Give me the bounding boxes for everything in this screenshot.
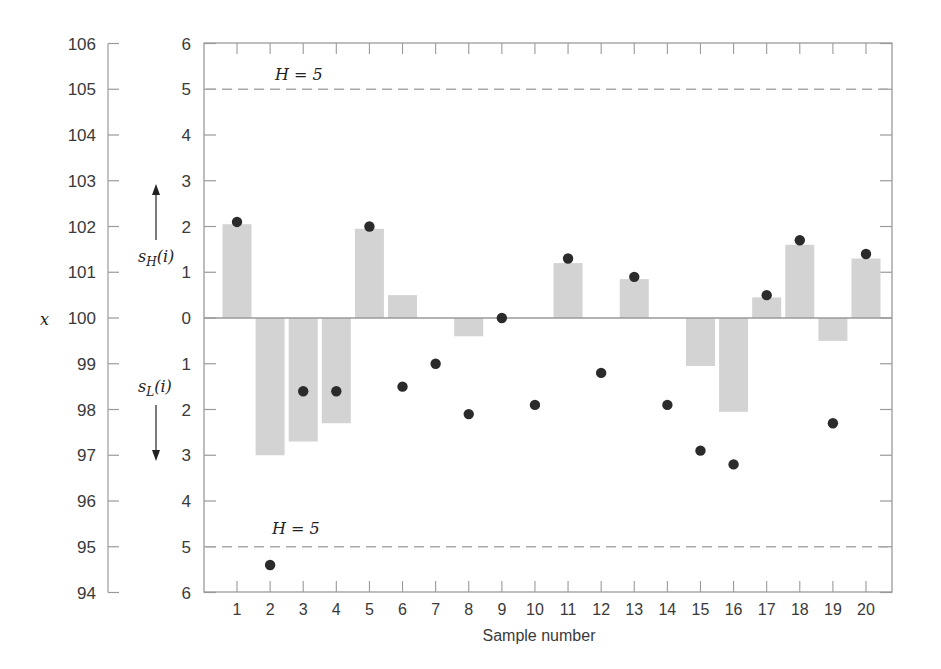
- cusum-bars: [223, 224, 881, 455]
- sample-tick-label: 15: [692, 601, 710, 618]
- sample-tick-label: 14: [658, 601, 676, 618]
- cusum-bar: [719, 318, 748, 412]
- cusum-tick-label: 6: [182, 35, 191, 54]
- lower-arrow-label: sL(i): [138, 377, 172, 399]
- observation-point: [464, 409, 474, 419]
- sample-tick-label: 7: [431, 601, 440, 618]
- cusum-tick-label: 5: [182, 80, 191, 99]
- x-axis-title: Sample number: [483, 627, 597, 644]
- sample-tick-label: 6: [398, 601, 407, 618]
- observation-point: [861, 249, 871, 259]
- cusum-bar: [454, 318, 483, 336]
- cusum-tick-label: 3: [182, 446, 191, 465]
- sample-tick-label: 4: [332, 601, 341, 618]
- x-tick-label: 95: [77, 538, 96, 557]
- lower-arrow: [152, 405, 160, 461]
- observation-point: [497, 313, 507, 323]
- observation-point: [331, 386, 341, 396]
- observation-point: [695, 445, 705, 455]
- cusum-tick-label: 2: [182, 401, 191, 420]
- cusum-tick-label: 4: [182, 492, 191, 511]
- cusum-tick-label: 6: [182, 584, 191, 603]
- cusum-bar: [256, 318, 285, 455]
- cusum-bar: [752, 297, 781, 318]
- cusum-tick-label: 4: [182, 126, 191, 145]
- x-tick-label: 94: [77, 584, 96, 603]
- observation-point: [397, 381, 407, 391]
- x-tick-label: 102: [68, 218, 96, 237]
- upper-arrow-label: sH(i): [138, 247, 174, 269]
- x-tick-label: 100: [68, 309, 96, 328]
- sample-tick-label: 13: [625, 601, 643, 618]
- sample-tick-label: 20: [857, 601, 875, 618]
- x-tick-label: 97: [77, 446, 96, 465]
- observation-point: [298, 386, 308, 396]
- cusum-bar: [620, 279, 649, 318]
- observation-point: [662, 400, 672, 410]
- sample-tick-label: 8: [464, 601, 473, 618]
- observation-point: [265, 560, 275, 570]
- cusum-tick-label: 5: [182, 538, 191, 557]
- cusum-bar: [852, 259, 881, 318]
- sample-tick-label: 18: [791, 601, 809, 618]
- observation-point: [430, 359, 440, 369]
- sample-tick-label: 3: [299, 601, 308, 618]
- cusum-bar: [355, 229, 384, 318]
- x-tick-label: 98: [77, 401, 96, 420]
- cusum-tick-label: 2: [182, 218, 191, 237]
- observation-point: [530, 400, 540, 410]
- observation-point: [364, 221, 374, 231]
- sample-tick-label: 11: [560, 601, 577, 618]
- sample-tick-label: 5: [365, 601, 374, 618]
- cusum-bar: [686, 318, 715, 366]
- x-tick-label: 105: [68, 80, 96, 99]
- cusum-tick-label: 1: [182, 263, 191, 282]
- observation-point: [828, 418, 838, 428]
- cusum-bar: [223, 224, 252, 318]
- sample-tick-label: 16: [725, 601, 743, 618]
- sample-tick-label: 2: [266, 601, 275, 618]
- upper-arrow: [152, 184, 160, 240]
- observation-point: [761, 290, 771, 300]
- observation-point: [596, 368, 606, 378]
- observation-point: [795, 235, 805, 245]
- cusum-bar: [322, 318, 351, 423]
- x-tick-label: 106: [68, 35, 96, 54]
- sample-tick-label: 10: [526, 601, 544, 618]
- cusum-bar: [388, 295, 417, 318]
- sample-tick-label: 1: [233, 601, 242, 618]
- sample-tick-label: 17: [758, 601, 776, 618]
- observation-point: [563, 253, 573, 263]
- cusum-tick-label: 3: [182, 172, 191, 191]
- x-tick-label: 101: [68, 263, 96, 282]
- h-upper-label: H = 5: [274, 65, 323, 84]
- x-tick-label: 96: [77, 492, 96, 511]
- cusum-bar: [289, 318, 318, 442]
- h-lower-label: H = 5: [271, 519, 320, 538]
- sample-tick-label: 9: [497, 601, 506, 618]
- cusum-bar: [818, 318, 847, 341]
- observation-point: [232, 217, 242, 227]
- x-tick-label: 99: [77, 355, 96, 374]
- left-axis-title: x: [40, 310, 49, 329]
- cusum-bar: [554, 263, 583, 318]
- x-value-axis: 106105104103102101100999897969594: [68, 35, 119, 603]
- cusum-tick-label: 1: [182, 355, 191, 374]
- x-tick-label: 103: [68, 172, 96, 191]
- observation-point: [629, 272, 639, 282]
- x-tick-label: 104: [68, 126, 96, 145]
- cusum-bar: [785, 245, 814, 318]
- cusum-chart: 106105104103102101100999897969594 654321…: [0, 0, 941, 669]
- observation-point: [728, 459, 738, 469]
- sample-tick-label: 12: [592, 601, 610, 618]
- sample-tick-label: 19: [824, 601, 842, 618]
- cusum-tick-label: 0: [182, 309, 191, 328]
